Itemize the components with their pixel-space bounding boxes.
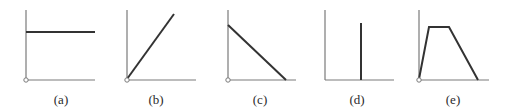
panel-d xyxy=(325,10,394,80)
panel-label-a: (a) xyxy=(41,92,81,108)
panel-label-c: (c) xyxy=(240,92,280,108)
origin-marker-icon xyxy=(125,78,129,82)
origin-marker-icon xyxy=(417,78,421,82)
panel-c xyxy=(226,10,296,82)
panel-b xyxy=(125,10,196,82)
panel-e xyxy=(417,10,489,82)
origin-marker-icon xyxy=(226,78,230,82)
curve-trapezoid xyxy=(419,27,478,80)
panel-label-e: (e) xyxy=(433,92,473,108)
curve-linear-increasing xyxy=(127,14,174,79)
curve-linear-decreasing xyxy=(228,25,286,80)
panel-a xyxy=(24,10,95,82)
panel-label-b: (b) xyxy=(136,92,176,108)
origin-marker-icon xyxy=(24,78,28,82)
panel-label-d: (d) xyxy=(337,92,377,108)
